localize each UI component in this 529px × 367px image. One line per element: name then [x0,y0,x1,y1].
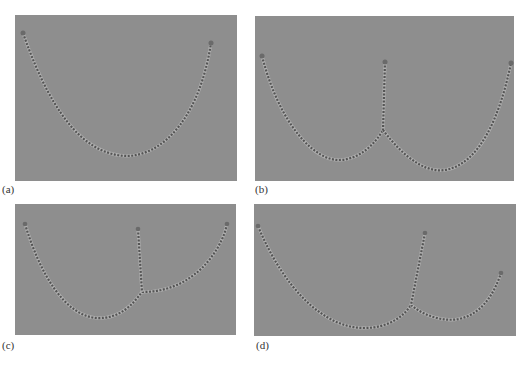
panel-label-c: (c) [2,340,14,351]
panel-label-b: (b) [255,184,268,195]
photo-panel-c [15,204,236,335]
photo-panel-b [255,16,514,181]
chain-catenary-a [15,15,237,181]
photo-panel-d [254,204,516,336]
photo-panel-a [15,15,237,181]
chain-catenary-c [15,204,236,335]
panel-label-d: (d) [256,340,269,351]
chain-catenary-d [254,204,516,336]
chain-catenary-b [255,16,514,181]
panel-label-a: (a) [2,184,14,195]
